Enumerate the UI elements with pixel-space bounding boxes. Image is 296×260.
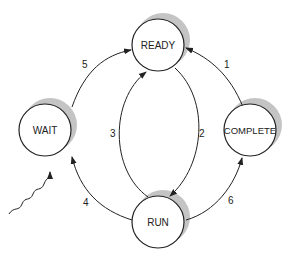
transition-5-label: 5 [82,59,88,70]
state-diagram: 5 1 3 2 4 6 READY WAIT COMPLETE RUN [0,0,296,260]
state-wait-label: WAIT [33,125,58,136]
transition-2-label: 2 [199,128,205,139]
transition-4 [72,157,132,220]
state-complete: COMPLETE [224,104,276,156]
transition-4-label: 4 [83,197,89,208]
transition-6 [186,158,242,220]
state-complete-label: COMPLETE [224,125,276,136]
transition-3 [119,72,148,197]
state-run-label: RUN [147,217,169,228]
state-ready: READY [132,19,184,71]
transition-3-label: 3 [110,128,116,139]
transition-6-label: 6 [228,195,234,206]
state-wait: WAIT [19,104,71,156]
state-ready-label: READY [141,40,176,51]
transition-2 [170,68,199,196]
transition-1-label: 1 [224,59,230,70]
transition-5 [72,50,131,107]
state-run: RUN [132,196,184,248]
external-event-wavy-arrow [9,172,50,214]
